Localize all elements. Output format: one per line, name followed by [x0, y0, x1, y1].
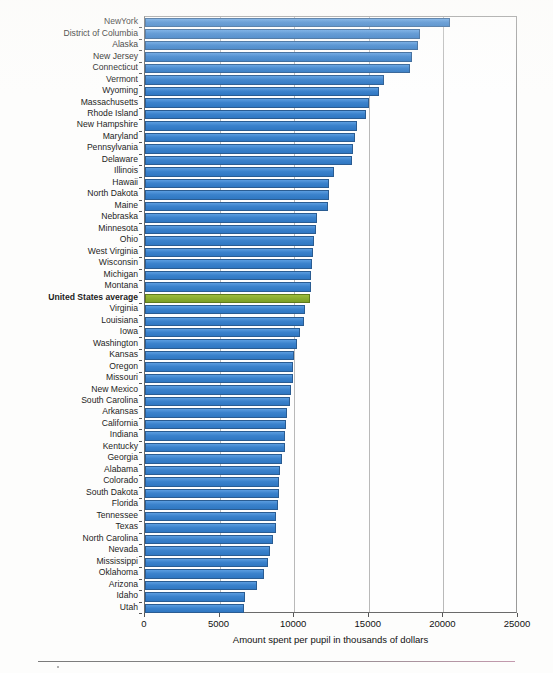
bar[interactable] — [145, 156, 352, 165]
bar[interactable] — [145, 18, 450, 27]
bar-row[interactable] — [145, 511, 516, 522]
bar-row[interactable] — [145, 270, 516, 281]
bar[interactable] — [145, 466, 280, 475]
bar-row[interactable] — [145, 522, 516, 533]
bar[interactable] — [145, 236, 314, 245]
bar[interactable] — [145, 305, 305, 314]
bar[interactable] — [145, 29, 420, 38]
bar[interactable] — [145, 581, 257, 590]
bar-row[interactable] — [145, 384, 516, 395]
bar-row[interactable] — [145, 430, 516, 441]
bar[interactable] — [145, 454, 282, 463]
bar-row[interactable] — [145, 155, 516, 166]
bar[interactable] — [145, 317, 304, 326]
bar-row[interactable] — [145, 40, 516, 51]
bar[interactable] — [145, 500, 278, 509]
bar-row[interactable] — [145, 63, 516, 74]
bar-row[interactable] — [145, 327, 516, 338]
bar[interactable] — [145, 420, 286, 429]
bar[interactable] — [145, 523, 276, 532]
bar-row[interactable] — [145, 453, 516, 464]
bar-row[interactable] — [145, 442, 516, 453]
bar-row[interactable] — [145, 316, 516, 327]
bar-row[interactable] — [145, 201, 516, 212]
bar[interactable] — [145, 87, 379, 96]
bar-row[interactable] — [145, 591, 516, 602]
bar[interactable] — [145, 443, 285, 452]
bar-row[interactable] — [145, 281, 516, 292]
bar[interactable] — [145, 408, 287, 417]
bar-row[interactable] — [145, 545, 516, 556]
bar[interactable] — [145, 121, 357, 130]
bar-row[interactable] — [145, 568, 516, 579]
bar-row[interactable] — [145, 350, 516, 361]
bar[interactable] — [145, 282, 311, 291]
bar-row[interactable] — [145, 499, 516, 510]
bar-row[interactable] — [145, 28, 516, 39]
bar-row[interactable] — [145, 580, 516, 591]
bar[interactable] — [145, 431, 285, 440]
bar-row[interactable] — [145, 373, 516, 384]
bar[interactable] — [145, 271, 311, 280]
bar-row[interactable] — [145, 465, 516, 476]
bar[interactable] — [145, 374, 293, 383]
bar[interactable] — [145, 202, 328, 211]
bar[interactable] — [145, 604, 244, 613]
bar[interactable] — [145, 75, 384, 84]
bar-row[interactable] — [145, 51, 516, 62]
bar-row[interactable] — [145, 224, 516, 235]
bar[interactable] — [145, 225, 316, 234]
bar-row[interactable] — [145, 338, 516, 349]
bar-row[interactable] — [145, 534, 516, 545]
bar-row[interactable] — [145, 86, 516, 97]
bar[interactable] — [145, 339, 297, 348]
bar[interactable] — [145, 351, 294, 360]
bar-row[interactable] — [145, 212, 516, 223]
bar[interactable] — [145, 362, 293, 371]
bar[interactable] — [145, 477, 279, 486]
bar-row[interactable] — [145, 258, 516, 269]
bar[interactable] — [145, 259, 312, 268]
bar-row[interactable] — [145, 235, 516, 246]
bar-row[interactable] — [145, 476, 516, 487]
bar-row[interactable] — [145, 17, 516, 28]
bar[interactable] — [145, 294, 310, 303]
bar-row[interactable] — [145, 166, 516, 177]
bar[interactable] — [145, 144, 353, 153]
bar[interactable] — [145, 546, 270, 555]
bar-row[interactable] — [145, 178, 516, 189]
bar-row[interactable] — [145, 120, 516, 131]
bar[interactable] — [145, 133, 355, 142]
bar[interactable] — [145, 489, 279, 498]
bar[interactable] — [145, 41, 418, 50]
bar[interactable] — [145, 248, 313, 257]
bar-row[interactable] — [145, 419, 516, 430]
bar-row[interactable] — [145, 407, 516, 418]
bar[interactable] — [145, 397, 290, 406]
bar[interactable] — [145, 179, 329, 188]
bar[interactable] — [145, 558, 268, 567]
bar-row[interactable] — [145, 361, 516, 372]
bar-row[interactable] — [145, 143, 516, 154]
bar-row[interactable] — [145, 396, 516, 407]
bar[interactable] — [145, 52, 412, 61]
bar-row[interactable] — [145, 74, 516, 85]
bar[interactable] — [145, 592, 245, 601]
bar-row[interactable] — [145, 109, 516, 120]
bar[interactable] — [145, 110, 366, 119]
bar[interactable] — [145, 167, 334, 176]
bar[interactable] — [145, 512, 276, 521]
bar-row[interactable] — [145, 488, 516, 499]
bar[interactable] — [145, 569, 264, 578]
bar[interactable] — [145, 190, 329, 199]
bar[interactable] — [145, 213, 317, 222]
bar-row[interactable] — [145, 189, 516, 200]
bar-row[interactable] — [145, 132, 516, 143]
bar[interactable] — [145, 535, 273, 544]
bar-row[interactable] — [145, 97, 516, 108]
bar[interactable] — [145, 385, 291, 394]
bar[interactable] — [145, 98, 369, 107]
bar[interactable] — [145, 328, 300, 337]
bar-row[interactable] — [145, 557, 516, 568]
bar-row[interactable] — [145, 293, 516, 304]
